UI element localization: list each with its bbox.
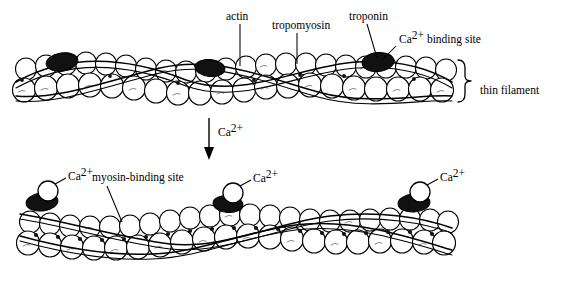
thin-filament-brace [458, 60, 471, 102]
calcium-label-left-ca: Ca [68, 170, 81, 182]
tropomyosin-label: tropomyosin [272, 19, 330, 32]
panel-relaxed-filament: thin filament actin tropomyosin troponin… [13, 10, 540, 105]
troponin-label: troponin [349, 10, 388, 23]
troponin-leader-line [367, 24, 377, 58]
calcium-label-right-ca: Ca [440, 171, 453, 183]
actin-label: actin [226, 10, 249, 22]
ca-binding-site-label-sup: 2+ [412, 29, 424, 41]
ca-binding-site-label-tail: binding site [424, 33, 481, 46]
transition-arrow-sup: 2+ [231, 122, 243, 134]
calcium-label-right: Ca2+ [440, 167, 465, 183]
transition-arrow-label: Ca2+ [218, 122, 243, 138]
ca-binding-site-label: Ca2+ binding site [399, 29, 481, 46]
transition-arrow-ca: Ca [218, 126, 231, 138]
ca-binding-site-label-ca: Ca [399, 33, 412, 45]
calcium-label-left-sup: 2+ [81, 166, 93, 178]
calcium-transition-arrow: Ca2+ [204, 118, 243, 160]
thin-filament-label: thin filament [480, 84, 540, 96]
troponin-complex-bottom-3 [397, 179, 438, 213]
panel-activated-filament: myosin-binding site Ca2+ Ca2+ Ca2+ [17, 166, 466, 260]
troponin-complex-bottom-1 [25, 178, 66, 213]
calcium-label-center-sup: 2+ [266, 168, 278, 180]
calcium-label-center: Ca2+ [253, 168, 278, 184]
svg-text:Ca2+ binding site: Ca2+ binding site [399, 29, 481, 46]
muscle-thin-filament-diagram: thin filament actin tropomyosin troponin… [0, 0, 566, 284]
myosin-binding-site-label: myosin-binding site [92, 171, 184, 184]
calcium-label-right-sup: 2+ [453, 167, 465, 179]
calcium-label-center-ca: Ca [253, 172, 266, 184]
calcium-label-left: Ca2+ [68, 166, 93, 182]
figure-canvas: thin filament actin tropomyosin troponin… [0, 0, 566, 284]
